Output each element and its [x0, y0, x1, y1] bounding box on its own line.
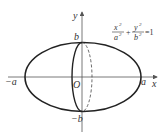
point-neg-b-label: −b	[71, 113, 83, 124]
svg-text:2: 2	[119, 22, 122, 27]
origin-label: O	[73, 79, 80, 90]
point-a-label: a	[141, 76, 146, 87]
svg-text:+: +	[126, 28, 131, 37]
ellipse-diagram: y x O b −b −a a x 2 a 2 + y 2 b 2 =1	[0, 0, 162, 139]
svg-text:2: 2	[139, 32, 142, 37]
svg-text:2: 2	[139, 22, 142, 27]
svg-text:b: b	[134, 33, 138, 42]
svg-text:2: 2	[119, 32, 122, 37]
y-axis-label: y	[72, 10, 78, 21]
svg-text:y: y	[133, 23, 138, 32]
svg-text:x: x	[113, 23, 118, 32]
svg-text:=1: =1	[145, 28, 154, 37]
x-axis-label: x	[151, 78, 157, 89]
svg-text:a: a	[114, 33, 118, 42]
point-b-label: b	[74, 31, 79, 42]
ellipse-equation: x 2 a 2 + y 2 b 2 =1	[112, 22, 154, 42]
point-neg-a-label: −a	[5, 76, 17, 87]
